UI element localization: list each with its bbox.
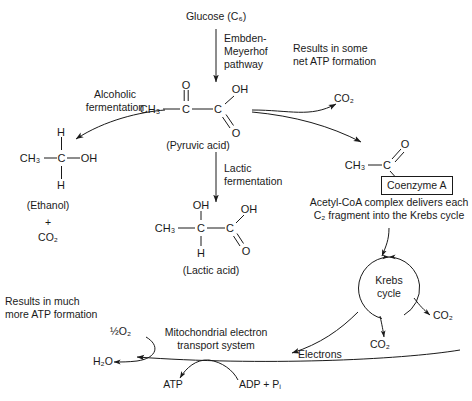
ethanol-hydroxyl: OH (81, 153, 98, 164)
lactate-carbonyl-o: O (242, 246, 251, 257)
embden-meyerhof-label: Embden- Meyerhof pathway (224, 32, 268, 71)
ethanol-c: C (58, 153, 66, 164)
mitochondrial-ets-label: Mitochondrial electron transport system (165, 326, 268, 352)
lactic-fermentation-label: Lactic fermentation (224, 162, 282, 188)
acetylcoa-c: C (383, 160, 391, 171)
lactate-c2: C (197, 223, 205, 234)
respiration-diagram: Glucose (C₆) Embden- Meyerhof pathway Re… (0, 0, 472, 401)
pyruvate-carboxyl-o: O (232, 128, 241, 139)
ethanol-plus: + (45, 216, 51, 229)
glucose-label: Glucose (C₆) (186, 10, 246, 23)
lactate-c1: C (226, 223, 234, 234)
atp-label: ATP (163, 378, 183, 391)
ethanol-methyl: CH₃ (20, 153, 40, 164)
krebs-co2-bottom-label: CO₂ (370, 338, 390, 351)
krebs-co2-right-label: CO₂ (433, 309, 453, 322)
results-much-atp-label: Results in much more ATP formation (5, 295, 97, 321)
electrons-label: Electrons (298, 348, 342, 361)
coenzyme-a-box: Coenzyme A (381, 176, 453, 195)
pyruvate-carbonyl-o: O (182, 80, 191, 91)
lactate-carboxyl-oh: OH (241, 204, 258, 215)
pyruvate-methyl: CH₃ (140, 104, 160, 115)
acetyl-coa-caption: Acetyl-CoA complex delivers each C₂ frag… (310, 196, 469, 222)
acetylcoa-carbonyl-o: O (401, 139, 410, 150)
acetylcoa-methyl: CH₃ (345, 160, 365, 171)
lactic-acid-caption: (Lactic acid) (183, 264, 240, 277)
ethanol-h-bottom: H (57, 180, 65, 191)
pyruvate-c1: C (214, 104, 222, 115)
water-label: H₂O (93, 355, 113, 368)
pyruvate-hydroxyl: OH (232, 84, 249, 95)
pyruvate-c2: C (182, 104, 190, 115)
co2-from-pyruvate-label: CO₂ (334, 92, 354, 105)
lactate-hydroxyl-top: OH (193, 200, 210, 211)
pyruvic-acid-caption: (Pyruvic acid) (166, 139, 230, 152)
ethanol-caption: (Ethanol) (27, 199, 70, 212)
ethanol-h-top: H (57, 127, 65, 138)
half-o2-label: ½O₂ (110, 325, 131, 338)
adp-pi-label: ADP + Pᵢ (239, 378, 281, 391)
krebs-cycle-label: Krebs cycle (375, 274, 402, 300)
lactate-methyl: CH₃ (155, 223, 175, 234)
lactate-h: H (197, 248, 205, 259)
ethanol-co2: CO₂ (38, 231, 58, 244)
alcoholic-fermentation-label: Alcoholic fermentation (86, 88, 144, 114)
results-some-atp-label: Results in some net ATP formation (293, 42, 376, 68)
